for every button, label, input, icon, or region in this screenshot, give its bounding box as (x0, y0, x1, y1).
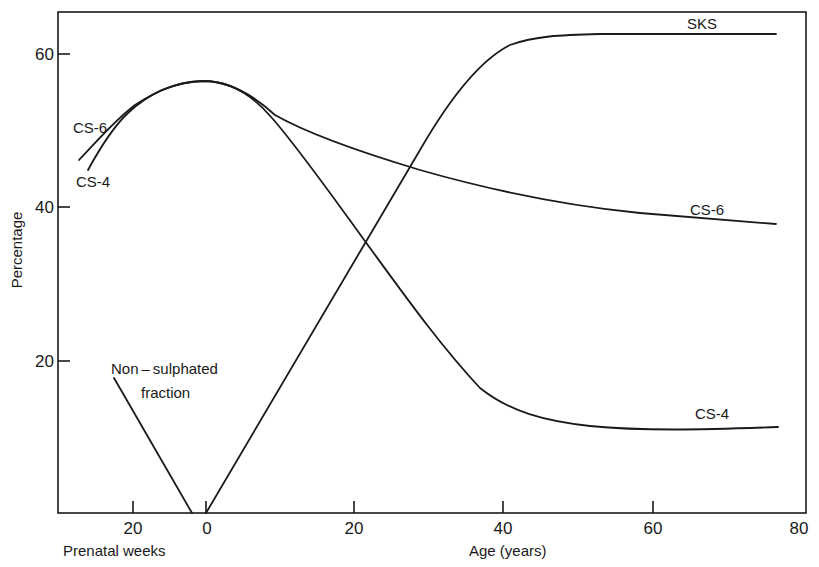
label-cs4-right: CS-4 (695, 405, 729, 422)
x-tick-label-prenatal-20: 20 (124, 519, 143, 538)
y-tick-label-20: 20 (35, 352, 54, 371)
y-tick-label-40: 40 (35, 198, 54, 217)
label-non-sulphated-line1: Non – sulphated (111, 360, 218, 377)
label-cs4-left: CS-4 (76, 173, 110, 190)
x-axis-title-age: Age (years) (469, 542, 547, 559)
x-tick-label-0: 0 (202, 519, 211, 538)
x-axis: 20 0 20 40 60 80 Prenatal weeks Age (yea… (63, 501, 808, 559)
x-tick-label-40: 40 (494, 519, 513, 538)
y-tick-label-60: 60 (35, 45, 54, 64)
series-cs4 (88, 81, 778, 430)
label-non-sulphated-line2: fraction (141, 384, 190, 401)
x-tick-label-20: 20 (345, 519, 364, 538)
y-axis: 60 40 20 Percentage (8, 45, 70, 371)
label-sks: SKS (687, 15, 717, 32)
y-axis-title: Percentage (8, 212, 25, 289)
x-tick-label-80: 80 (790, 519, 809, 538)
series-cs6 (79, 81, 776, 224)
label-cs6-right: CS-6 (690, 201, 724, 218)
series-sks (206, 34, 776, 513)
label-cs6-left: CS-6 (73, 119, 107, 136)
x-axis-title-prenatal: Prenatal weeks (63, 542, 166, 559)
line-chart: 60 40 20 Percentage 20 0 20 40 60 80 Pre… (0, 0, 819, 567)
x-tick-label-60: 60 (644, 519, 663, 538)
